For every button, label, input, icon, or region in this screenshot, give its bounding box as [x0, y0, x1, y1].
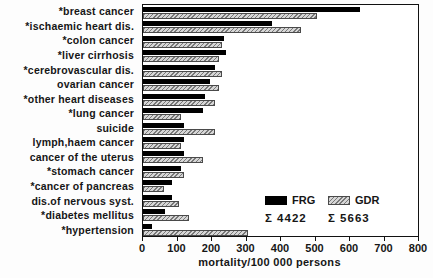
x-tick-mark — [418, 237, 419, 241]
legend-sum-frg: Σ 4422 — [265, 212, 337, 224]
x-tick-label: 800 — [409, 242, 427, 254]
bar-gdr — [143, 157, 203, 163]
category-label: *ischaemic heart dis. — [0, 19, 138, 34]
bar-row — [143, 106, 418, 120]
bar-frg — [143, 123, 184, 128]
bar-gdr — [143, 13, 317, 19]
legend-entry-frg: FRG Σ 4422 — [265, 194, 337, 224]
category-label: cancer of the uterus — [0, 150, 138, 165]
bar-frg — [143, 50, 226, 55]
category-label: *liver cirrhosis — [0, 48, 138, 63]
x-tick-label: 200 — [202, 242, 220, 254]
bar-gdr — [143, 129, 215, 135]
bar-frg — [143, 108, 203, 113]
bar-chart-figure: *breast cancer*ischaemic heart dis.*colo… — [0, 0, 433, 278]
frg-swatch-icon — [265, 196, 287, 205]
category-label: *breast cancer — [0, 4, 138, 19]
x-tick-mark — [246, 237, 247, 241]
bar-gdr — [143, 85, 219, 91]
legend-entry-gdr: GDR Σ 5663 — [328, 194, 400, 224]
bar-frg — [143, 79, 210, 84]
category-label: dis.of nervous syst. — [0, 193, 138, 208]
category-label: *colon cancer — [0, 33, 138, 48]
category-axis: *breast cancer*ischaemic heart dis.*colo… — [0, 4, 138, 237]
x-tick-label: 100 — [167, 242, 185, 254]
bar-frg — [143, 151, 184, 156]
bar-row — [143, 34, 418, 48]
x-tick-mark — [280, 237, 281, 241]
bar-gdr — [143, 230, 248, 236]
bar-row — [143, 121, 418, 135]
bar-frg — [143, 195, 172, 200]
bar-frg — [143, 65, 215, 70]
x-tick-label: 600 — [340, 242, 358, 254]
category-label: ovarian cancer — [0, 77, 138, 92]
bar-gdr — [143, 71, 222, 77]
bar-row — [143, 77, 418, 91]
bar-frg — [143, 180, 172, 185]
bar-gdr — [143, 143, 181, 149]
category-label: *cancer of pancreas — [0, 179, 138, 194]
bar-gdr — [143, 114, 181, 120]
legend-sum-gdr: Σ 5663 — [328, 212, 400, 224]
x-tick-mark — [211, 237, 212, 241]
bar-gdr — [143, 215, 189, 221]
bar-frg — [143, 224, 152, 229]
bar-row — [143, 149, 418, 163]
bar-row — [143, 135, 418, 149]
category-label: *cerebrovascular dis. — [0, 62, 138, 77]
x-axis-title: mortality/100 000 persons — [142, 256, 397, 268]
bar-gdr — [143, 172, 184, 178]
bar-row — [143, 5, 418, 19]
category-label: *other heart diseases — [0, 91, 138, 106]
bar-row — [143, 19, 418, 33]
x-tick-label: 700 — [374, 242, 392, 254]
bar-row — [143, 164, 418, 178]
bar-frg — [143, 137, 184, 142]
category-label: suicide — [0, 121, 138, 136]
category-label: *hypertension — [0, 222, 138, 237]
bar-gdr — [143, 100, 215, 106]
bar-gdr — [143, 42, 222, 48]
bar-gdr — [143, 186, 164, 192]
legend-label-frg: FRG — [292, 194, 315, 206]
x-tick-label: 0 — [139, 242, 145, 254]
bar-frg — [143, 209, 165, 214]
bar-frg — [143, 7, 360, 12]
bar-gdr — [143, 27, 301, 33]
x-tick-mark — [142, 237, 143, 241]
x-tick-label: 300 — [236, 242, 254, 254]
gdr-swatch-icon — [328, 196, 350, 205]
x-tick-label: 400 — [271, 242, 289, 254]
bar-gdr — [143, 201, 179, 207]
x-tick-mark — [177, 237, 178, 241]
category-label: *diabetes mellitus — [0, 208, 138, 223]
bar-frg — [143, 36, 224, 41]
bar-row — [143, 63, 418, 77]
bar-row — [143, 48, 418, 62]
x-tick-mark — [315, 237, 316, 241]
x-tick-mark — [349, 237, 350, 241]
category-label: *stomach cancer — [0, 164, 138, 179]
bar-row — [143, 178, 418, 192]
bar-row — [143, 92, 418, 106]
bar-frg — [143, 166, 181, 171]
category-label: *lung cancer — [0, 106, 138, 121]
x-tick-label: 500 — [305, 242, 323, 254]
bar-gdr — [143, 56, 219, 62]
legend-label-gdr: GDR — [355, 194, 379, 206]
category-label: lymph,haem cancer — [0, 135, 138, 150]
x-tick-mark — [384, 237, 385, 241]
bar-frg — [143, 21, 272, 26]
bar-frg — [143, 94, 205, 99]
